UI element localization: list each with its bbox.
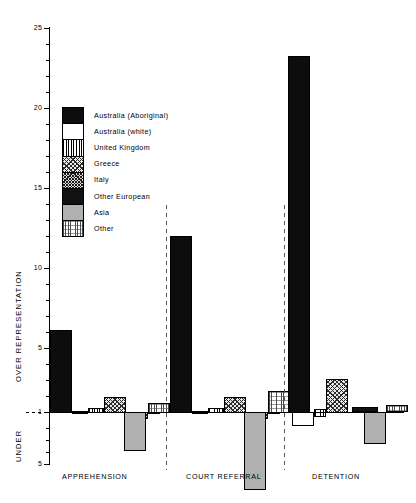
- legend-label: Australia (Aboriginal): [94, 111, 168, 120]
- y-tick-label-5: 5: [20, 344, 42, 351]
- bar-detention-greece: [326, 379, 348, 413]
- legend-item-australia-white: Australia (white): [62, 123, 168, 139]
- y-minor-tick: [46, 124, 49, 125]
- y-minor-tick: [46, 236, 49, 237]
- legend-label: Greece: [94, 159, 120, 168]
- legend-item-italy: Italy: [62, 172, 168, 188]
- y-minor-tick: [46, 60, 49, 61]
- y-minor-tick: [46, 440, 49, 441]
- legend-label: Australia (white): [94, 127, 151, 136]
- legend-item-greece: Greece: [62, 156, 168, 172]
- chart-canvas: 25 20 15 10 5 1 5 OVER REPRESENTATION UN…: [0, 0, 416, 503]
- legend-item-asia: Asia: [62, 204, 168, 220]
- y-minor-tick: [46, 44, 49, 45]
- bar-court-referral-australia-aboriginal: [170, 236, 192, 413]
- y-axis-title-under: UNDER: [14, 430, 23, 462]
- fine-checker-swatch-icon: [62, 172, 84, 188]
- y-minor-tick: [46, 204, 49, 205]
- y-tick-15: [44, 188, 49, 189]
- legend-item-other: Other: [62, 220, 168, 236]
- fine-dots-swatch-icon: [62, 220, 84, 236]
- y-tick-10: [44, 268, 49, 269]
- bar-detention-australia-aboriginal: [288, 56, 310, 413]
- y-minor-tick: [46, 156, 49, 157]
- bar-court-referral-other: [268, 391, 290, 413]
- legend-item-other-european: Other European: [62, 188, 168, 204]
- legend-label: Other: [94, 224, 114, 233]
- y-tick-label-10: 10: [20, 264, 42, 271]
- legend-label: Asia: [94, 208, 109, 217]
- y-minor-tick: [46, 92, 49, 93]
- y-minor-tick: [46, 380, 49, 381]
- group-label-court-referral: COURT REFERRAL: [186, 472, 261, 481]
- white-swatch-icon: [62, 123, 84, 139]
- y-minor-tick: [46, 316, 49, 317]
- gray-swatch-icon: [62, 204, 84, 220]
- y-minor-tick: [46, 252, 49, 253]
- diagonal-crosshatch-swatch-icon: [62, 156, 84, 172]
- bar-apprehension-asia: [124, 412, 146, 451]
- y-minor-tick: [46, 396, 49, 397]
- baseline-axis: [49, 412, 404, 413]
- solid-black-swatch-icon: [62, 188, 84, 204]
- y-tick-label-minus5: 5: [20, 460, 42, 467]
- y-minor-tick: [46, 284, 49, 285]
- y-minor-tick: [46, 428, 49, 429]
- bar-apprehension-australia-aboriginal: [50, 330, 72, 413]
- y-tick-25: [44, 28, 49, 29]
- group-label-apprehension: APPREHENSION: [62, 472, 128, 481]
- y-axis-title-over: OVER REPRESENTATION: [14, 270, 23, 382]
- group-label-detention: DETENTION: [312, 472, 360, 481]
- group-separator-2: [284, 205, 285, 470]
- y-minor-tick: [46, 332, 49, 333]
- bar-court-referral-greece: [224, 397, 246, 413]
- y-minor-tick: [46, 172, 49, 173]
- y-minor-tick: [46, 364, 49, 365]
- y-tick-5: [44, 348, 49, 349]
- bar-detention-other: [386, 405, 408, 412]
- y-tick-label-25: 25: [20, 24, 42, 31]
- vertical-lines-swatch-icon: [62, 139, 84, 155]
- bar-detention-australia-white: [292, 412, 314, 426]
- legend: Australia (Aboriginal) Australia (white)…: [62, 107, 168, 237]
- legend-label: Italy: [94, 175, 109, 184]
- legend-label: United Kingdom: [94, 143, 150, 152]
- y-minor-tick: [46, 76, 49, 77]
- legend-item-australia-aboriginal: Australia (Aboriginal): [62, 107, 168, 123]
- bar-apprehension-greece: [104, 397, 126, 413]
- y-tick-20: [44, 108, 49, 109]
- baseline-dashed-extension: [26, 412, 48, 413]
- y-tick-label-15: 15: [20, 184, 42, 191]
- legend-label: Other European: [94, 192, 150, 201]
- bar-detention-asia: [364, 412, 386, 444]
- y-minor-tick: [46, 452, 49, 453]
- y-minor-tick: [46, 220, 49, 221]
- legend-item-united-kingdom: United Kingdom: [62, 139, 168, 155]
- y-minor-tick: [46, 140, 49, 141]
- y-tick-label-20: 20: [20, 104, 42, 111]
- solid-black-swatch-icon: [62, 107, 84, 123]
- group-separator-1: [166, 205, 167, 470]
- y-minor-tick: [46, 300, 49, 301]
- y-tick-minus5: [44, 464, 49, 465]
